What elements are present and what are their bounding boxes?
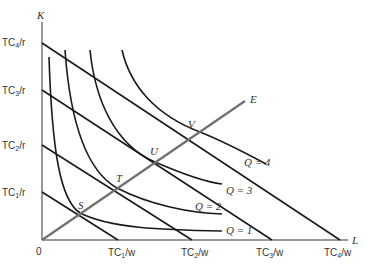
point-v-label: V: [188, 118, 196, 130]
isoquant-q2-label: Q = 2: [195, 200, 222, 212]
tc4-w-label: TC4/w: [324, 247, 352, 259]
tc2-r-label: TC2/r: [2, 140, 26, 152]
isoquant-q4: [122, 50, 266, 164]
tc4-r-label: TC4/r: [2, 37, 26, 49]
origin-label: 0: [36, 246, 42, 257]
tc1-r-label: TC1/r: [2, 187, 26, 199]
tc3-r-label: TC3/r: [2, 85, 26, 97]
point-s-label: S: [78, 199, 84, 211]
isoquant-q1-label: Q = 1: [226, 224, 252, 236]
isoquant-q4-label: Q = 4: [244, 156, 271, 168]
expansion-path-line: [42, 101, 245, 240]
tc3-w-label: TC3/w: [256, 247, 284, 259]
k-axis-label: K: [36, 9, 45, 21]
l-axis-label: L: [351, 234, 358, 246]
diagram-canvas: K L 0 TC4/r TC3/r TC2/r TC1/r TC1/w TC2/…: [0, 0, 369, 265]
expansion-path-diagram: K L 0 TC4/r TC3/r TC2/r TC1/r TC1/w TC2/…: [0, 0, 369, 265]
isoquant-q3-label: Q = 3: [226, 184, 253, 196]
tc1-w-label: TC1/w: [108, 247, 136, 259]
expansion-path-label: E: [249, 93, 257, 105]
point-u-label: U: [150, 145, 159, 157]
tc2-w-label: TC2/w: [181, 247, 209, 259]
point-t-label: T: [116, 172, 123, 184]
